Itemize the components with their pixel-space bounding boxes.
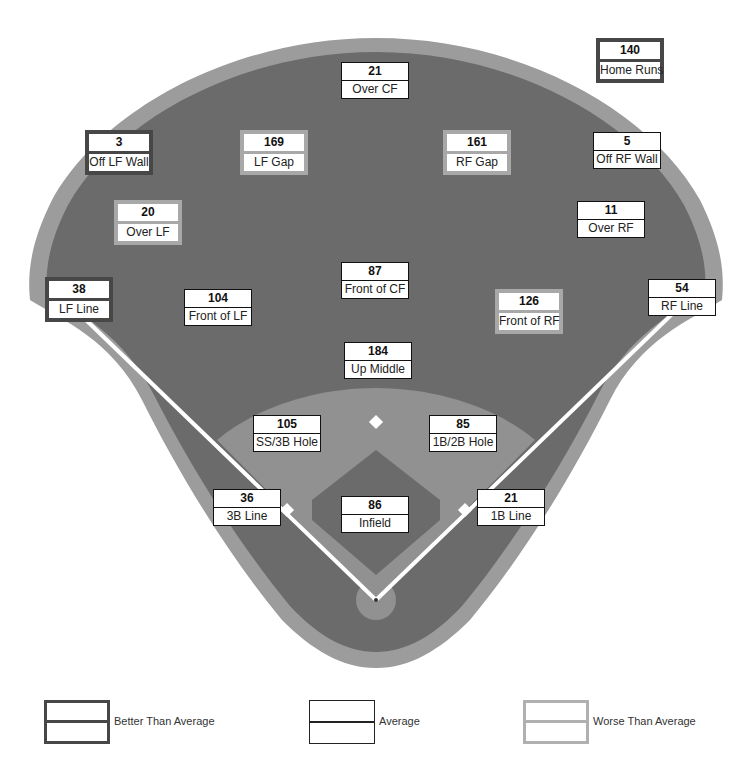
zone-label: Over RF: [578, 220, 644, 237]
zone-label: 3B Line: [214, 508, 280, 525]
zone-value: 86: [342, 497, 408, 514]
zone-label: Infield: [342, 515, 408, 532]
zone-value: 54: [649, 280, 715, 297]
zone-ss-3b-hole: 105SS/3B Hole: [253, 415, 321, 452]
zone-over-cf: 21Over CF: [341, 62, 409, 99]
zone-value: 169: [244, 134, 304, 151]
zone-value: 5: [594, 133, 660, 150]
zone-off-rf-wall: 5Off RF Wall: [593, 132, 661, 169]
zone-value: 85: [430, 416, 496, 433]
zone-lf-gap: 169LF Gap: [240, 130, 308, 175]
legend-label: Worse Than Average: [593, 715, 696, 727]
zone-front-of-rf: 126Front of RF: [495, 289, 563, 334]
zone-home-runs: 140Home Runs: [596, 38, 664, 83]
zone-over-rf: 11Over RF: [577, 201, 645, 238]
zone-off-lf-wall: 3Off LF Wall: [85, 130, 153, 175]
zone-up-middle: 184Up Middle: [344, 342, 412, 379]
zone-label: Over LF: [118, 224, 178, 241]
zone-label: Up Middle: [345, 361, 411, 378]
legend-swatch: [309, 700, 375, 744]
legend-swatch: [44, 700, 110, 744]
zone-label: Off LF Wall: [89, 154, 149, 171]
zone-label: RF Line: [649, 298, 715, 315]
zone-lf-line: 38LF Line: [45, 277, 113, 322]
zone-label: Over CF: [342, 81, 408, 98]
zone-value: 36: [214, 490, 280, 507]
zone-value: 11: [578, 202, 644, 219]
zone-rf-gap: 161RF Gap: [443, 130, 511, 175]
legend-label: Average: [379, 715, 420, 727]
zone-value: 38: [49, 281, 109, 298]
zone-label: Front of CF: [342, 281, 408, 298]
zone-infield: 86Infield: [341, 496, 409, 533]
zone-label: Home Runs: [600, 62, 660, 79]
zone-value: 105: [254, 416, 320, 433]
zone-label: LF Gap: [244, 154, 304, 171]
zone-label: Front of LF: [185, 308, 251, 325]
zone-label: 1B/2B Hole: [430, 434, 496, 451]
zone-value: 126: [499, 293, 559, 310]
zone-label: Front of RF: [499, 313, 559, 330]
zone-value: 3: [89, 134, 149, 151]
zone-front-of-lf: 104Front of LF: [184, 289, 252, 326]
zone-value: 21: [342, 63, 408, 80]
zone-label: 1B Line: [478, 508, 544, 525]
zone-value: 20: [118, 204, 178, 221]
home-plate: [374, 598, 378, 602]
zone-label: SS/3B Hole: [254, 434, 320, 451]
zone-value: 140: [600, 42, 660, 59]
zone-front-of-cf: 87Front of CF: [341, 262, 409, 299]
zone-value: 184: [345, 343, 411, 360]
zone-label: LF Line: [49, 301, 109, 318]
zone-label: Off RF Wall: [594, 151, 660, 168]
zone-value: 21: [478, 490, 544, 507]
zone-3b-line: 363B Line: [213, 489, 281, 526]
zone-value: 104: [185, 290, 251, 307]
zone-over-lf: 20Over LF: [114, 200, 182, 245]
zone-label: RF Gap: [447, 154, 507, 171]
zone-rf-line: 54RF Line: [648, 279, 716, 316]
legend-swatch: [523, 700, 589, 744]
zone-value: 161: [447, 134, 507, 151]
zone-1b-2b-hole: 851B/2B Hole: [429, 415, 497, 452]
legend-label: Better Than Average: [114, 715, 215, 727]
zone-1b-line: 211B Line: [477, 489, 545, 526]
zone-value: 87: [342, 263, 408, 280]
